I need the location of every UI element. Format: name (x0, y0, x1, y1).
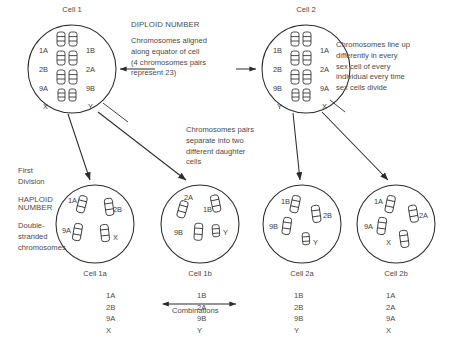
combination-item: X (106, 325, 115, 337)
cell-1-label-right-1: 1B (86, 46, 95, 55)
cell-1-label-right-2: 2A (86, 65, 95, 74)
combination-item: 1A (386, 290, 395, 302)
cell-1-label-right-3: 9B (86, 84, 95, 93)
cell-1b-marker-2: 1B (203, 205, 212, 214)
chromosome-Y (212, 225, 220, 237)
cell-1-label-left-1: 1A (39, 46, 48, 55)
cell-2-label-right-1: 1A (320, 46, 329, 55)
cell-2b-marker-2: 2A (419, 211, 428, 220)
chromosome-pair-1 (57, 32, 77, 46)
cell-1-label-left-2: 2B (39, 65, 48, 74)
chromosome-9B (282, 217, 292, 235)
chromosome-pair-2 (291, 51, 311, 65)
cell-1a-title: Cell 1a (70, 270, 120, 278)
cell-2a-marker-1: 1B (281, 197, 290, 206)
chromosome-2B (311, 205, 321, 223)
chromosome-2A (176, 200, 188, 219)
diploid-number-heading: DIPLOID NUMBER (131, 21, 200, 29)
cell-1a-marker-3: 9A (62, 226, 71, 235)
cell-2a-marker-4: Y (313, 238, 318, 247)
cell-2-leader-line (330, 100, 345, 112)
combination-item: 1B (294, 290, 303, 302)
cell-1a-combination-list: 1A 2B 9A X (106, 290, 115, 336)
cell-2b-title: Cell 2b (371, 270, 421, 278)
combination-item: 2B (106, 302, 115, 314)
cell-2-title: Cell 2 (281, 6, 331, 14)
cell-1b-marker-4: Y (223, 228, 228, 237)
chromosome-2A (408, 205, 419, 223)
cell-2-label-left-1: 1B (273, 46, 282, 55)
chromosome-1A (76, 195, 88, 213)
cell-1-label-left-4: X (43, 102, 48, 111)
double-stranded-label: Double- stranded chromosomes (18, 221, 66, 253)
cell-1a-marker-1: 1A (68, 196, 77, 205)
cell-2-label-right-4: X (322, 102, 327, 111)
diploid-number-body: Chromosomes aligned along equator of cel… (131, 36, 207, 79)
chromosome-Y (302, 233, 310, 245)
combination-item: 1B (197, 290, 206, 302)
cell-2a-title: Cell 2a (277, 270, 327, 278)
chromosome-pair-1 (291, 32, 311, 46)
arrow-cell1-to-cell1a (68, 114, 90, 180)
cell-2-label-right-2: 2A (320, 65, 329, 74)
combination-item: 9B (294, 313, 303, 325)
cell-2b-marker-4: X (386, 238, 391, 247)
cell-2-label-left-4: Y (277, 102, 282, 111)
chromosome-X (100, 224, 110, 242)
chromosome-9B (194, 223, 203, 241)
combination-item: 2B (294, 302, 303, 314)
cell-1b-marker-3: 9B (174, 228, 183, 237)
combination-item: 1A (106, 290, 115, 302)
chromosome-pair-9 (291, 70, 311, 84)
cell-1b-marker-1: 2A (184, 193, 193, 202)
cell-1-title: Cell 1 (47, 6, 97, 14)
cell-2-label-right-3: 9A (320, 84, 329, 93)
cell-1a-marker-4: X (113, 233, 118, 242)
cell-2a-marker-3: 9B (269, 222, 278, 231)
chromosome-pair-sex (292, 89, 310, 101)
chromosome-9A (377, 217, 387, 235)
chromosome-1A (384, 195, 395, 213)
combinations-label: Combinations (172, 307, 218, 315)
combination-item: X (386, 325, 395, 337)
combination-item: Y (197, 325, 206, 337)
chromosome-pair-sex (58, 89, 76, 101)
cell-2b-combination-list: 1A 2A 9A X (386, 290, 395, 336)
meiosis-diagram: Cell 1 (0, 0, 452, 347)
arrow-cell2-to-cell2b (322, 112, 388, 180)
cell-1b-title: Cell 1b (175, 270, 225, 278)
chromosome-X (399, 230, 409, 248)
haploid-number-heading: HAPLOID NUMBER (18, 196, 53, 212)
cell-1-label-right-4: Y (88, 102, 93, 111)
first-division-label: First Division (18, 166, 45, 188)
separation-note-body: Chromosomes pairs separate into two diff… (186, 125, 254, 168)
combination-item: 9A (386, 313, 395, 325)
combination-item: 2A (386, 302, 395, 314)
lineup-note-body: Chromosomes line up differently in every… (336, 40, 410, 94)
cell-2-label-left-2: 2B (273, 65, 282, 74)
chromosome-pair-2 (57, 51, 77, 65)
cell-2b-marker-1: 1A (374, 197, 383, 206)
arrow-cell1-to-cell1b (98, 112, 186, 180)
chromosome-pair-9 (57, 70, 77, 84)
chromosome-9A (72, 223, 83, 241)
arrow-cell2-to-cell2a (293, 113, 300, 180)
chromosome-1B (289, 195, 300, 213)
cell-2a-combination-list: 1B 2B 9B Y (294, 290, 303, 336)
combination-item: 9A (106, 313, 115, 325)
cell-2a-marker-2: 2B (323, 211, 332, 220)
combination-item: Y (294, 325, 303, 337)
cell-1-label-left-3: 9A (39, 84, 48, 93)
cell-2b-marker-3: 9A (364, 222, 373, 231)
cell-1a-marker-2: 2B (113, 205, 122, 214)
cell-2-label-left-3: 9B (273, 84, 282, 93)
